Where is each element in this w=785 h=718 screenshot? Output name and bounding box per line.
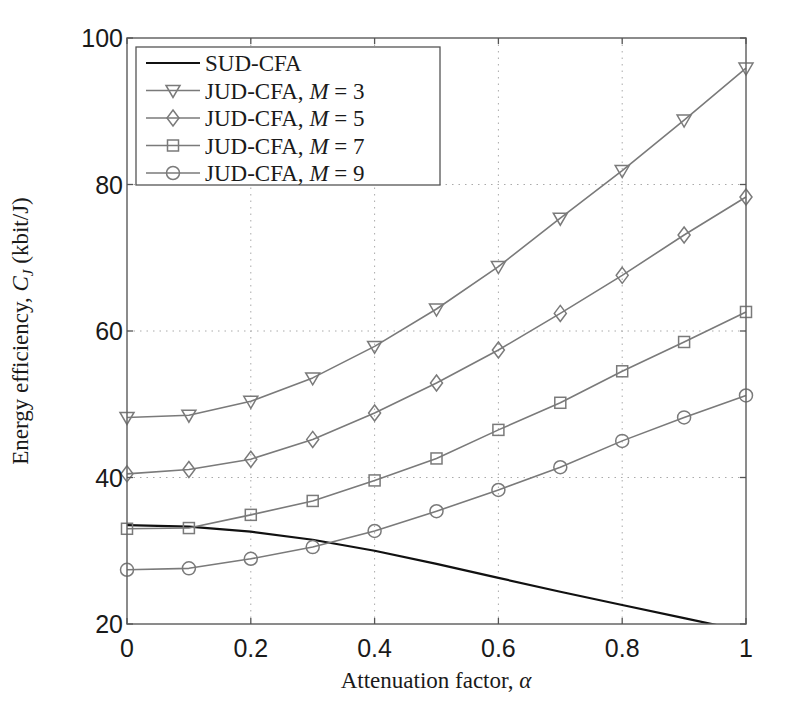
x-tick-label: 1: [739, 634, 753, 662]
x-tick-labels: 00.20.40.60.81: [120, 634, 753, 662]
x-axis-title: Attenuation factor, α: [341, 668, 533, 693]
y-tick-label: 100: [81, 24, 123, 52]
legend-label-value: = 7: [329, 134, 365, 159]
legend-label-var: M: [308, 134, 330, 159]
legend-label-value: = 3: [329, 79, 365, 104]
y-tick-label: 20: [95, 610, 123, 638]
series-line: [127, 197, 746, 474]
x-tick-label: 0.4: [357, 634, 392, 662]
legend-label-main: SUD-CFA: [205, 51, 302, 76]
y-tick-label: 40: [95, 464, 123, 492]
x-tick-label: 0.6: [481, 634, 516, 662]
legend-label-main: JUD-CFA,: [205, 161, 309, 186]
series-jud-cfa-m-5: [121, 189, 752, 482]
legend-label-value: = 5: [329, 106, 365, 131]
legend-label: JUD-CFA, M = 3: [205, 79, 365, 104]
y-tick-label: 60: [95, 317, 123, 345]
x-axis-title-symbol: α: [519, 668, 532, 693]
x-tick-label: 0.8: [605, 634, 640, 662]
legend-label-var: M: [308, 79, 330, 104]
legend-label-main: JUD-CFA,: [205, 79, 309, 104]
x-tick-label: 0: [120, 634, 134, 662]
legend-label: JUD-CFA, M = 9: [205, 161, 365, 186]
series-line: [127, 312, 746, 529]
series-jud-cfa-m-9: [121, 389, 753, 576]
triangle-marker: [182, 410, 196, 422]
legend-label: JUD-CFA, M = 7: [205, 134, 365, 159]
legend-label: SUD-CFA: [205, 51, 302, 76]
series-line: [127, 525, 746, 631]
y-axis-title-symbol: C: [8, 275, 33, 291]
x-axis-title-text: Attenuation factor,: [341, 668, 520, 693]
legend-label: JUD-CFA, M = 5: [205, 106, 365, 131]
y-axis-title-prefix: Energy efficiency,: [8, 291, 33, 464]
y-axis-title-unit: (kbit/J): [8, 197, 33, 269]
y-tick-labels: 20406080100: [81, 24, 123, 638]
legend-label-main: JUD-CFA,: [205, 134, 309, 159]
y-axis-title: Energy efficiency, CJ (kbit/J): [8, 197, 36, 465]
series-sud-cfa: [127, 525, 746, 631]
series-jud-cfa-m-7: [122, 306, 752, 534]
x-tick-label: 0.2: [233, 634, 268, 662]
legend-label-var: M: [308, 161, 330, 186]
energy-efficiency-chart: 00.20.40.60.81 20406080100 Attenuation f…: [0, 0, 785, 718]
legend-label-value: = 9: [329, 161, 365, 186]
legend-label-main: JUD-CFA,: [205, 106, 309, 131]
legend-label-var: M: [308, 106, 330, 131]
legend: SUD-CFAJUD-CFA, M = 3JUD-CFA, M = 5JUD-C…: [136, 47, 440, 186]
y-tick-label: 80: [95, 171, 123, 199]
series-line: [127, 395, 746, 569]
